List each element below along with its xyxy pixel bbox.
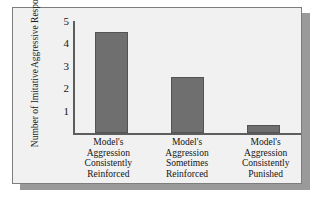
bar-sometimes-reinforced bbox=[171, 77, 204, 133]
y-axis-line bbox=[73, 21, 75, 135]
x-label-line: Punished bbox=[226, 169, 305, 180]
x-label-line: Consistently bbox=[69, 158, 148, 169]
chart-panel: Number of Imitative Aggressive Responses… bbox=[12, 7, 302, 184]
y-tick-label-1: 1 bbox=[64, 105, 70, 116]
y-tick-label-3: 3 bbox=[64, 60, 70, 71]
x-label-line: Aggression bbox=[148, 148, 227, 159]
y-tick-label-4: 4 bbox=[64, 38, 70, 49]
x-axis-label-group-0: Model's Aggression Consistently Reinforc… bbox=[69, 137, 148, 179]
y-axis-title-line-1: Number of Imitative bbox=[30, 69, 41, 147]
x-axis-label-group-1: Model's Aggression Sometimes Reinforced bbox=[148, 137, 227, 179]
plot-area: 5 4 3 2 1 bbox=[73, 21, 301, 135]
x-label-line: Model's bbox=[226, 137, 305, 148]
bar-consistently-punished bbox=[247, 125, 280, 133]
x-label-line: Aggression bbox=[226, 148, 305, 159]
x-label-line: Aggression bbox=[69, 148, 148, 159]
x-axis-labels: Model's Aggression Consistently Reinforc… bbox=[69, 137, 305, 179]
y-tick-label-2: 2 bbox=[64, 83, 70, 94]
x-label-line: Model's bbox=[148, 137, 227, 148]
x-axis-label-group-2: Model's Aggression Consistently Punished bbox=[226, 137, 305, 179]
bar-consistently-reinforced bbox=[95, 32, 128, 133]
y-axis-title-line-2: Aggressive Responses bbox=[30, 0, 41, 68]
chart-screenshot: Number of Imitative Aggressive Responses… bbox=[0, 0, 319, 199]
y-tick-label-5: 5 bbox=[64, 16, 70, 27]
x-label-line: Reinforced bbox=[69, 169, 148, 180]
x-label-line: Sometimes bbox=[148, 158, 227, 169]
x-label-line: Reinforced bbox=[148, 169, 227, 180]
x-label-line: Model's bbox=[69, 137, 148, 148]
x-label-line: Consistently bbox=[226, 158, 305, 169]
y-axis-title: Number of Imitative Aggressive Responses bbox=[20, 5, 50, 125]
x-axis-line bbox=[73, 133, 301, 135]
